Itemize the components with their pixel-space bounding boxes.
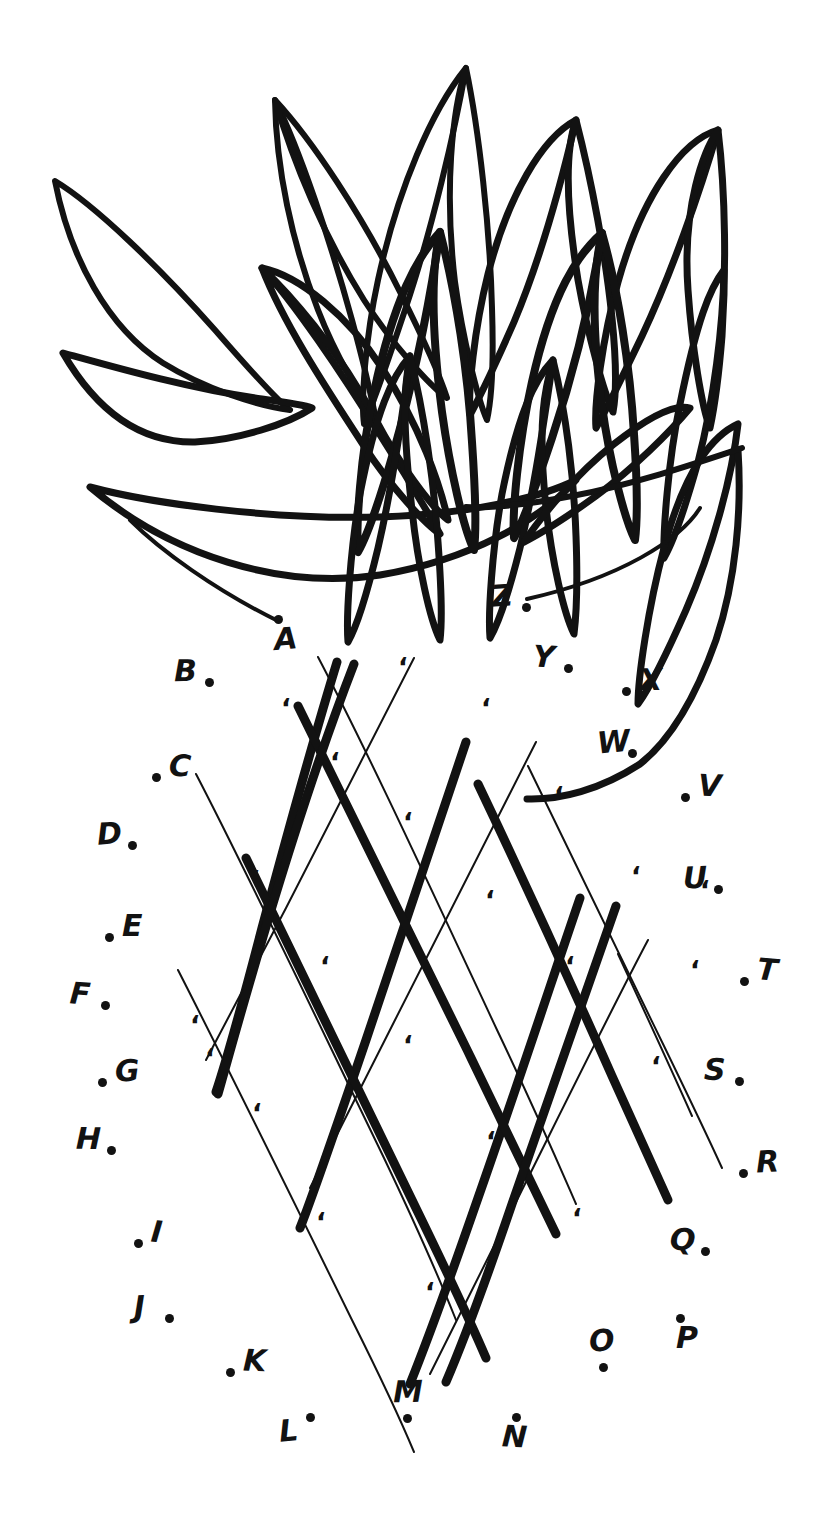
lattice-tick: ‘: [425, 1278, 435, 1308]
dot-label-n: N: [501, 1421, 528, 1452]
dot-label-g: G: [114, 1055, 140, 1086]
lattice-tick: ‘: [320, 952, 330, 982]
lattice-tick: ‘: [651, 1052, 661, 1082]
pineapple-artwork: ‘ ‘ ‘ ‘ ‘ ‘ ‘ ‘ ‘ ‘ ‘ ‘ ‘ ‘ ‘ ‘ ‘ ‘ ‘ ‘ …: [0, 0, 829, 1525]
dot-label-j: J: [133, 1292, 145, 1322]
lattice-tick: ‘: [485, 886, 495, 916]
dot-marker-c[interactable]: [152, 773, 161, 782]
dot-marker-t[interactable]: [740, 977, 749, 986]
dot-label-k: K: [242, 1346, 266, 1377]
lattice-tick: ‘: [565, 952, 575, 982]
dot-marker-s[interactable]: [735, 1077, 744, 1086]
lattice-tick: ‘: [403, 1031, 413, 1061]
dot-label-a: A: [273, 623, 299, 655]
dot-marker-p[interactable]: [676, 1314, 685, 1323]
lattice-tick: ‘: [281, 694, 291, 724]
dot-label-f: F: [69, 978, 92, 1009]
dot-label-r: R: [755, 1146, 780, 1177]
crown-leaf-2: [63, 353, 312, 442]
dot-label-h: H: [76, 1124, 102, 1154]
lattice-tick: ‘: [403, 808, 413, 838]
dot-marker-o[interactable]: [599, 1363, 608, 1372]
dot-marker-l[interactable]: [306, 1413, 315, 1422]
crown-leaf-9b: [434, 232, 476, 550]
dot-marker-u[interactable]: [714, 885, 723, 894]
dot-marker-e[interactable]: [105, 933, 114, 942]
dot-marker-z[interactable]: [522, 603, 531, 612]
dot-label-m: M: [393, 1377, 423, 1408]
dot-label-q: Q: [669, 1224, 697, 1256]
dot-label-t: T: [756, 954, 779, 986]
lattice-thick-5: [246, 858, 486, 1358]
dot-label-c: C: [168, 750, 192, 781]
crown-leaf-6: [470, 120, 576, 415]
dot-label-u: U: [682, 863, 707, 894]
dot-marker-d[interactable]: [128, 841, 137, 850]
dot-marker-h[interactable]: [107, 1146, 116, 1155]
dot-marker-w[interactable]: [628, 749, 637, 758]
dot-marker-k[interactable]: [226, 1368, 235, 1377]
dot-marker-a[interactable]: [274, 615, 283, 624]
pineapple-body-lattice: [178, 657, 722, 1452]
lattice-thick-4: [298, 706, 556, 1234]
dot-label-y: Y: [532, 641, 555, 672]
dot-marker-x[interactable]: [622, 687, 631, 696]
dot-label-z: Z: [490, 580, 514, 611]
lattice-tick: ‘: [486, 1127, 496, 1157]
dot-label-w: W: [596, 726, 632, 759]
lattice-tick: ‘: [572, 1204, 582, 1234]
crown-leaf-1: [55, 181, 290, 410]
connect-the-dots-pineapple-page: CONNECT THE DOTS FROM A TO Z: [0, 0, 829, 1525]
dot-label-o: O: [588, 1325, 616, 1357]
lattice-tick: ‘: [554, 782, 564, 812]
lattice-thin-3: [178, 970, 414, 1452]
lattice-tick: ‘: [631, 862, 641, 892]
dot-label-e: E: [122, 911, 143, 941]
dot-marker-g[interactable]: [98, 1078, 107, 1087]
dot-marker-y[interactable]: [564, 664, 573, 673]
lattice-tick: ‘: [398, 653, 408, 683]
lattice-tick: ‘: [205, 1044, 215, 1074]
dot-marker-j[interactable]: [165, 1314, 174, 1323]
dot-marker-f[interactable]: [101, 1001, 110, 1010]
dot-label-d: D: [96, 818, 123, 850]
dot-marker-v[interactable]: [681, 793, 690, 802]
dot-label-x: X: [639, 665, 663, 695]
dot-label-l: L: [278, 1415, 300, 1447]
lattice-tick: ‘: [690, 956, 700, 986]
dot-label-b: B: [174, 656, 197, 686]
dot-marker-r[interactable]: [739, 1169, 748, 1178]
lattice-tick: ‘: [316, 1208, 326, 1238]
dot-marker-i[interactable]: [134, 1239, 143, 1248]
lattice-tick: ‘: [252, 1099, 262, 1129]
dot-label-p: P: [676, 1323, 698, 1353]
lattice-tick: ‘: [190, 1011, 200, 1041]
dot-marker-m[interactable]: [403, 1414, 412, 1423]
dot-marker-n[interactable]: [512, 1413, 521, 1422]
dot-marker-b[interactable]: [205, 678, 214, 687]
dot-marker-q[interactable]: [701, 1247, 710, 1256]
lattice-tick: ‘: [250, 866, 260, 896]
dot-label-v: V: [697, 771, 721, 802]
lattice-tick: ‘: [330, 748, 340, 778]
dot-label-s: S: [704, 1055, 726, 1085]
lattice-tick: ‘: [481, 694, 491, 724]
